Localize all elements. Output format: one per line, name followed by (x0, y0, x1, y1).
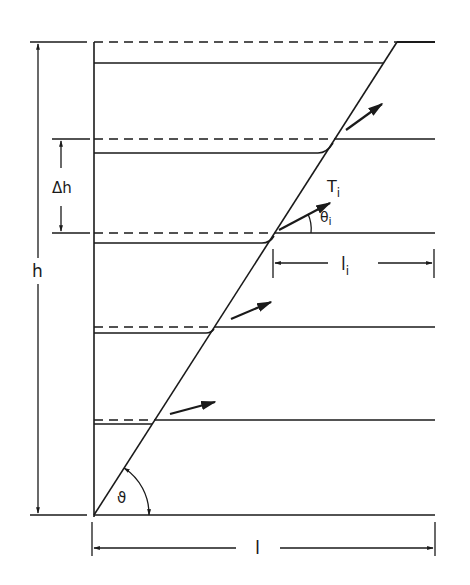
label-anchorage-length: li (341, 254, 349, 278)
label-tension: Ti (326, 177, 340, 200)
reinforcement-layer-5 (94, 420, 435, 424)
label-failure-angle: ϑ (117, 489, 126, 507)
reinforcement-layer-4 (94, 327, 435, 333)
label-h: h (32, 261, 43, 281)
label-theta: θi (320, 209, 332, 228)
tension-arrow-layer-5 (170, 402, 215, 414)
reinforcement-layer-2 (94, 139, 435, 153)
theta-angle-arc (308, 214, 311, 233)
tension-arrow-layer-4 (231, 302, 271, 319)
reinforced-wall-diagram: h Δh l Ti θi li ϑ (0, 0, 470, 585)
failure-angle-arc (124, 468, 149, 515)
label-delta-h: Δh (52, 179, 72, 197)
tension-arrow-layer-2 (346, 104, 382, 130)
reinforcement-layer-1 (94, 42, 435, 63)
failure-plane (94, 42, 397, 515)
label-l: l (255, 537, 260, 558)
reinforcement-layer-3 (94, 233, 435, 243)
